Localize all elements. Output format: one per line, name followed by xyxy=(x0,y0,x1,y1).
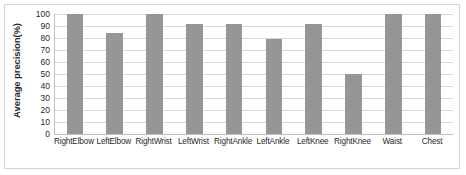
bar-rightknee[interactable] xyxy=(345,74,362,134)
y-axis-tick-labels: 1009080706050403020100 xyxy=(27,14,53,134)
y-axis-tick-100: 100 xyxy=(24,9,50,19)
x-axis-tick-leftwrist: LeftWrist xyxy=(173,137,213,155)
x-axis-tick-rightwrist: RightWrist xyxy=(134,137,174,155)
bar-slot-rightwrist xyxy=(135,14,175,134)
bar-slot-rightelbow xyxy=(55,14,95,134)
bar-slot-leftknee xyxy=(294,14,334,134)
bar-slot-rightankle xyxy=(214,14,254,134)
x-axis-tick-leftknee: LeftKnee xyxy=(293,137,333,155)
y-axis-tick-30: 30 xyxy=(24,93,50,103)
bar-rightelbow[interactable] xyxy=(67,14,84,134)
y-axis-tick-60: 60 xyxy=(24,57,50,67)
y-axis-tick-50: 50 xyxy=(24,69,50,79)
x-axis-tick-leftankle: LeftAnkle xyxy=(253,137,293,155)
bar-slot-waist xyxy=(373,14,413,134)
bar-slot-rightknee xyxy=(334,14,374,134)
bar-chest[interactable] xyxy=(425,14,442,134)
bar-slot-leftelbow xyxy=(95,14,135,134)
y-axis-tick-10: 10 xyxy=(24,117,50,127)
bar-leftknee[interactable] xyxy=(305,24,322,134)
bar-slot-chest xyxy=(413,14,453,134)
bar-chart: Average precision(%) 1009080706050403020… xyxy=(4,4,460,169)
bar-slot-leftwrist xyxy=(174,14,214,134)
y-axis-tick-90: 90 xyxy=(24,21,50,31)
x-axis-tick-rightankle: RightAnkle xyxy=(213,137,253,155)
y-axis-title-label: Average precision(%) xyxy=(11,23,22,118)
y-axis-tick-40: 40 xyxy=(24,81,50,91)
x-axis-tick-waist: Waist xyxy=(372,137,412,155)
x-axis-tick-leftelbow: LeftElbow xyxy=(94,137,134,155)
bar-leftelbow[interactable] xyxy=(106,33,123,134)
bar-rightankle[interactable] xyxy=(226,24,243,134)
bar-waist[interactable] xyxy=(385,14,402,134)
plot-area xyxy=(54,14,453,135)
bar-leftankle[interactable] xyxy=(266,39,283,134)
y-axis-tick-70: 70 xyxy=(24,45,50,55)
bar-leftwrist[interactable] xyxy=(186,24,203,134)
x-axis-tick-rightelbow: RightElbow xyxy=(54,137,94,155)
bars-layer xyxy=(55,14,453,134)
x-axis-tick-chest: Chest xyxy=(412,137,452,155)
bar-slot-leftankle xyxy=(254,14,294,134)
bar-rightwrist[interactable] xyxy=(146,14,163,134)
x-axis-tick-rightknee: RightKnee xyxy=(333,137,373,155)
y-axis-tick-80: 80 xyxy=(24,33,50,43)
x-axis-tick-labels: RightElbowLeftElbowRightWristLeftWristRi… xyxy=(54,137,452,155)
y-axis-tick-0: 0 xyxy=(24,129,50,139)
y-axis-tick-20: 20 xyxy=(24,105,50,115)
